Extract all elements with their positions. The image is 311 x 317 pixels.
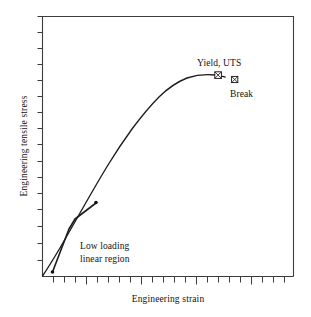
break-marker [232, 76, 238, 82]
yield-uts-marker [215, 72, 222, 79]
x-axis-ticks [54, 277, 285, 285]
stress-strain-figure: Yield, UTS Break Low loading linear regi… [0, 0, 311, 317]
x-axis-title: Engineering strain [132, 294, 205, 304]
chart-canvas: Yield, UTS Break Low loading linear regi… [0, 0, 311, 317]
low-loading-annotation-line2: linear region [80, 254, 130, 264]
y-axis-ticks [38, 17, 43, 261]
low-loading-start-dot [51, 270, 55, 274]
plot-frame [43, 17, 294, 277]
low-loading-end-dot [94, 201, 98, 205]
yield-uts-label: Yield, UTS [197, 58, 241, 68]
stress-strain-curve [43, 75, 226, 276]
break-label: Break [230, 89, 253, 99]
y-axis-title: Engineering tensile stress [19, 95, 29, 196]
axes-frame-path [43, 17, 294, 277]
low-loading-annotation-line1: Low loading [80, 241, 130, 251]
